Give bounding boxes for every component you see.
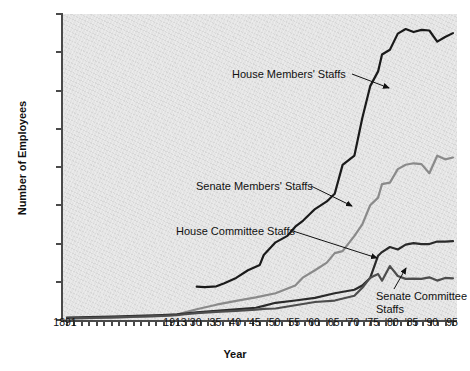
x-axis-tick: [140, 320, 142, 326]
x-axis-tick-label: '40: [227, 316, 241, 328]
y-axis-tick: [56, 166, 63, 168]
x-axis-tick: [111, 320, 113, 326]
x-axis-tick: [88, 320, 90, 326]
annotation-house-members-staffs: House Members' Staffs: [232, 68, 346, 81]
x-axis-tick: [341, 320, 343, 326]
x-axis-tick-label: '35: [208, 316, 222, 328]
x-axis-tick-label: '50: [267, 316, 281, 328]
x-axis-tick-label: '30: [188, 316, 202, 328]
x-axis-tick: [103, 320, 105, 326]
y-axis-tick: [56, 281, 63, 283]
x-axis-tick: [244, 320, 246, 326]
x-axis-tick-label: '60: [306, 316, 320, 328]
y-axis-tick: [56, 204, 63, 206]
x-axis-tick: [81, 320, 83, 326]
x-axis-tick-label: '95: [444, 316, 458, 328]
x-axis-tick-label: 1891: [53, 316, 76, 328]
data-lines: [63, 14, 457, 320]
x-axis-tick-label: '75: [365, 316, 379, 328]
x-axis-tick: [155, 320, 157, 326]
y-axis-title: Number of Employees: [16, 68, 28, 248]
x-axis-tick: [118, 320, 120, 326]
x-axis-tick: [125, 320, 127, 326]
y-axis-tick: [56, 243, 63, 245]
x-axis-tick-label: '80: [385, 316, 399, 328]
plot-area: [61, 14, 457, 322]
x-axis-tick: [281, 320, 283, 326]
y-axis-tick: [56, 51, 63, 53]
x-axis-tick: [133, 320, 135, 326]
x-axis-tick-label: '45: [247, 316, 261, 328]
y-axis-tick: [56, 128, 63, 130]
x-axis-tick: [148, 320, 150, 326]
x-axis-title: Year: [0, 348, 470, 360]
chart-container: Number of Employees 01,0002,0003,0004,00…: [0, 0, 470, 371]
x-axis-tick-label: 1913: [163, 316, 186, 328]
x-axis-tick-label: '85: [405, 316, 419, 328]
annotation-senate-committee-staffs: Senate Committee Staffs: [376, 290, 468, 315]
x-axis-tick-label: '90: [424, 316, 438, 328]
annotation-senate-members-staffs: Senate Members' Staffs: [196, 180, 313, 193]
x-axis-tick-label: '55: [286, 316, 300, 328]
x-axis-tick-label: '70: [346, 316, 360, 328]
y-axis-tick: [56, 13, 63, 15]
x-axis-tick-label: '65: [326, 316, 340, 328]
x-axis-tick: [96, 320, 98, 326]
x-axis-tick: [400, 320, 402, 326]
y-axis-tick: [56, 90, 63, 92]
x-axis-tick: [222, 320, 224, 326]
annotation-house-committee-staffs: House Committee Staffs: [176, 225, 295, 238]
